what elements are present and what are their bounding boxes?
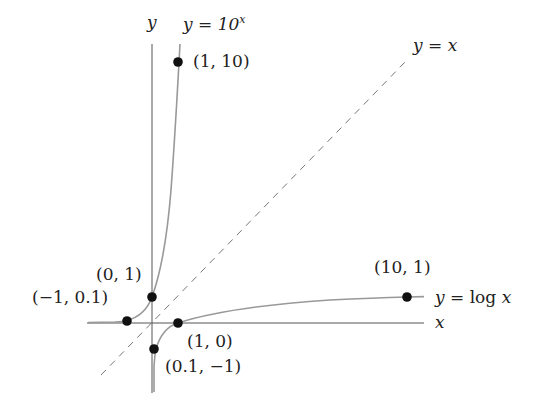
point-1-0 [173, 318, 183, 328]
point-0-1 [147, 292, 157, 302]
point-neg1-0.1 [122, 316, 132, 326]
identity-line [101, 60, 407, 375]
x-axis-label: x [435, 314, 445, 331]
point-label-0-1: (0, 1) [96, 266, 142, 283]
y-axis-label: y [147, 14, 157, 31]
diagram-canvas: y x y = 10x y = x y = log x (1, 10) (0, … [0, 0, 552, 405]
point-label-neg1-0.1: (−1, 0.1) [32, 289, 108, 306]
identity-label: y = x [413, 37, 457, 54]
plot-svg [0, 0, 552, 405]
exponential-label-base: y = 10 [183, 14, 239, 34]
point-label-0.1-neg1: (0.1, −1) [165, 358, 241, 375]
point-0.1-neg1 [149, 344, 159, 354]
point-label-10-1: (10, 1) [374, 259, 431, 276]
identity-label-text: y = x [413, 35, 457, 55]
logarithm-label-fn: log [470, 287, 497, 307]
logarithm-label: y = log x [435, 289, 511, 306]
point-10-1 [402, 292, 412, 302]
point-1-10 [173, 57, 183, 67]
point-label-1-0: (1, 0) [187, 333, 233, 350]
exponential-label: y = 10x [183, 16, 246, 33]
logarithm-label-prefix: y = [435, 287, 470, 307]
exponential-label-exp: x [239, 13, 245, 26]
point-label-1-10: (1, 10) [193, 53, 250, 70]
logarithm-label-var: x [502, 287, 512, 307]
